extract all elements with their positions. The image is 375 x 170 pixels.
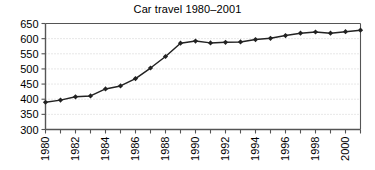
y-axis-labels: 650600550500450400350300 (20, 18, 38, 136)
x-axis-label-1984: 1984 (99, 137, 111, 161)
series-car-travel-line (46, 30, 361, 102)
y-axis-label-300: 300 (20, 124, 38, 136)
data-point-1985 (118, 83, 123, 88)
y-axis-label-500: 500 (20, 63, 38, 75)
y-axis-label-400: 400 (20, 93, 38, 105)
data-series-line (46, 30, 361, 102)
data-point-1994 (253, 37, 258, 42)
data-point-1999 (328, 31, 333, 36)
data-point-1980 (43, 100, 48, 105)
x-axis-label-1986: 1986 (129, 137, 141, 161)
data-point-1991 (208, 40, 213, 45)
data-point-1990 (193, 38, 198, 43)
x-axis-label-1992: 1992 (219, 137, 231, 161)
x-axis-label-2000: 2000 (339, 137, 351, 161)
x-axis-label-1990: 1990 (189, 137, 201, 161)
data-point-1983 (88, 93, 93, 98)
gridlines (46, 39, 361, 115)
x-axis-labels: 1980198219841986198819901992199419961998… (39, 137, 351, 161)
data-point-1993 (238, 39, 243, 44)
x-axis-label-1998: 1998 (309, 137, 321, 161)
data-point-1998 (313, 29, 318, 34)
y-axis-label-550: 550 (20, 48, 38, 60)
chart-plot-area: 650600550500450400350300 198019821984198… (0, 0, 375, 170)
data-point-1984 (103, 86, 108, 91)
x-axis-label-1980: 1980 (39, 137, 51, 161)
axis-frame (46, 24, 361, 130)
data-point-1982 (73, 94, 78, 99)
x-axis-label-1988: 1988 (159, 137, 171, 161)
y-axis-label-600: 600 (20, 33, 38, 45)
data-point-1997 (298, 31, 303, 36)
y-axis-label-450: 450 (20, 78, 38, 90)
x-axis-label-1996: 1996 (279, 137, 291, 161)
y-axis-label-350: 350 (20, 108, 38, 120)
y-axis-label-650: 650 (20, 18, 38, 30)
data-point-1996 (283, 33, 288, 38)
car-travel-line-chart: Car travel 1980–2001 6506005505004504003… (0, 0, 375, 170)
x-axis-label-1982: 1982 (69, 137, 81, 161)
data-series-markers (43, 28, 363, 105)
data-point-2001 (358, 28, 363, 33)
data-point-2000 (343, 29, 348, 34)
data-point-1992 (223, 40, 228, 45)
data-point-1995 (268, 36, 273, 41)
data-point-1981 (58, 98, 63, 103)
x-axis-label-1994: 1994 (249, 137, 261, 161)
